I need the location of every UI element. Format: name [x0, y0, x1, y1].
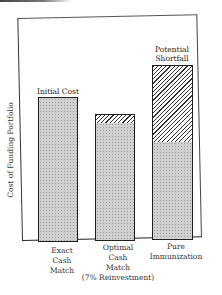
x-label-line: Immunization	[150, 252, 202, 262]
x-label-line: Cash	[82, 253, 154, 263]
x-label-optimal-cash-match: Optimal Cash Match (7% Reinvestment)	[82, 243, 154, 283]
x-label-exact-cash-match: Exact Cash Match	[50, 246, 74, 276]
bar-pure-immunization	[152, 65, 193, 240]
x-label-line: (7% Reinvestment)	[82, 273, 154, 283]
x-label-line: Pure	[150, 242, 202, 252]
annotation-initial-cost: Initial Cost	[37, 87, 79, 96]
x-label-line: Match	[82, 263, 154, 273]
annotation-potential-shortfall-line2: Shortfall	[150, 54, 194, 63]
annotation-potential-shortfall: Potential Shortfall	[150, 45, 194, 63]
x-label-line: Cash	[50, 256, 74, 266]
bar-optimal-initial-cost-segment	[96, 123, 134, 240]
annotation-potential-shortfall-line1: Potential	[150, 45, 194, 54]
bar-pure-shortfall-segment	[153, 66, 192, 143]
x-label-line: Match	[50, 266, 74, 276]
bar-exact-cash-match	[38, 97, 78, 242]
bar-pure-initial-cost-segment	[153, 142, 192, 239]
x-label-line: Optimal	[82, 243, 154, 253]
x-label-pure-immunization: Pure Immunization	[150, 242, 202, 262]
x-label-line: Exact	[50, 246, 74, 256]
scan-edge-artifact	[0, 0, 72, 2]
y-axis-label: Cost of Funding Portfolio	[6, 102, 15, 198]
bar-optimal-cash-match	[95, 114, 135, 241]
